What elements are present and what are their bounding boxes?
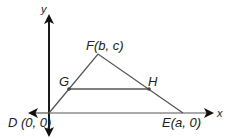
- label-e: E(a, 0): [162, 115, 201, 130]
- label-f: F(b, c): [86, 38, 124, 53]
- x-axis-label: x: [216, 107, 223, 119]
- y-axis-label: y: [40, 3, 48, 15]
- label-d: D (0, 0): [8, 115, 51, 130]
- label-h: H: [148, 74, 158, 89]
- triangle-diagram: y x F(b, c) G H D (0, 0) E(a, 0): [0, 0, 238, 139]
- label-g: G: [59, 74, 69, 89]
